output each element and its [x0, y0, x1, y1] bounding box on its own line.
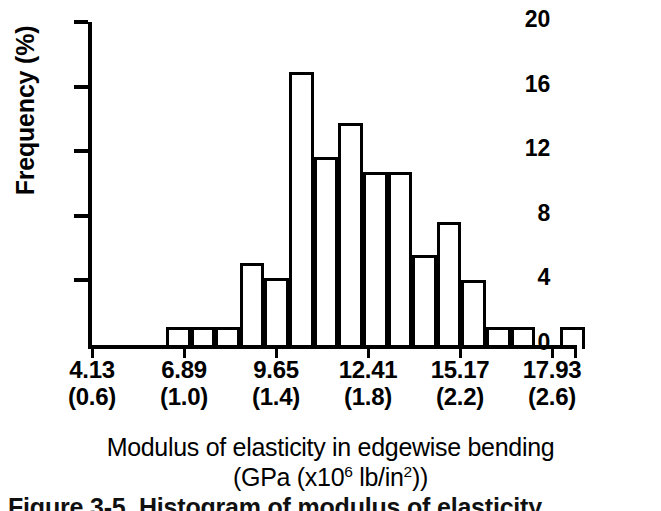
x-units-exp-2: 2	[404, 463, 412, 480]
bar	[412, 255, 437, 349]
x-units-mid: lb/in	[353, 463, 404, 491]
bar	[338, 123, 363, 349]
bar	[289, 72, 314, 349]
x-axis-title: Modulus of elasticity in edgewise bendin…	[0, 432, 661, 462]
bar	[388, 172, 413, 349]
figure-caption: Figure 3-5. Histogram of modulus of elas…	[8, 492, 658, 511]
x-tick-label-psi: (2.6)	[497, 383, 607, 410]
bar	[461, 280, 486, 349]
bar	[437, 222, 462, 349]
y-tick-8	[74, 214, 88, 218]
x-axis-units: (GPa (x106 lb/in2))	[0, 462, 661, 492]
bar	[240, 263, 265, 349]
x-units-exp-6: 6	[344, 463, 352, 480]
histogram-figure: Frequency (%) 20 16 12 8 4 0 4.13(0.6)6.…	[0, 0, 661, 511]
x-units-prefix: (GPa (x10	[233, 463, 344, 491]
y-tick-20	[74, 20, 88, 24]
x-tick-label-17.93: 17.93(2.6)	[497, 356, 607, 410]
x-tick-label-gpa: 17.93	[497, 356, 607, 383]
bar	[314, 157, 339, 349]
bar	[363, 172, 388, 349]
x-units-suffix: ))	[412, 463, 428, 491]
y-tick-16	[74, 85, 88, 89]
x-tick-label-group: 4.13(0.6)6.89(1.0)9.65(1.4)12.41(1.8)15.…	[0, 356, 661, 426]
y-axis-title: Frequency (%)	[11, 0, 40, 256]
y-tick-12	[74, 149, 88, 153]
x-axis-line	[88, 345, 575, 349]
bar	[264, 278, 289, 349]
y-tick-4	[74, 278, 88, 282]
bar-series	[92, 22, 575, 349]
